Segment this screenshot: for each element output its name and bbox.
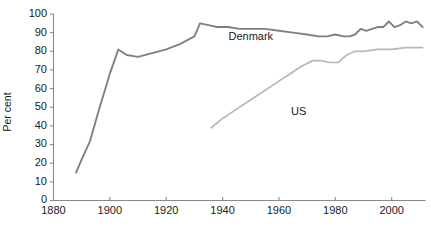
x-tick-label-1960: 1960 bbox=[267, 204, 291, 216]
y-tick-label-80: 80 bbox=[35, 44, 47, 56]
x-tick-label-1900: 1900 bbox=[98, 204, 122, 216]
chart-container: 0102030405060708090100 18801900192019401… bbox=[0, 0, 431, 230]
y-tick-label-90: 90 bbox=[35, 26, 47, 38]
x-tick-label-1940: 1940 bbox=[210, 204, 234, 216]
y-tick-label-40: 40 bbox=[35, 119, 47, 131]
x-axis-tick-labels: 1880190019201940196019802000 bbox=[41, 204, 404, 216]
series-lines bbox=[76, 21, 423, 172]
y-tick-label-20: 20 bbox=[35, 156, 47, 168]
y-tick-label-100: 100 bbox=[29, 7, 47, 19]
y-tick-label-30: 30 bbox=[35, 137, 47, 149]
x-tick-label-1880: 1880 bbox=[41, 204, 65, 216]
series-annotations: DenmarkUS bbox=[228, 30, 306, 117]
x-tick-label-1980: 1980 bbox=[323, 204, 347, 216]
series-label-denmark: Denmark bbox=[228, 30, 273, 42]
y-axis-tick-labels: 0102030405060708090100 bbox=[29, 7, 47, 206]
y-tick-label-10: 10 bbox=[35, 175, 47, 187]
x-tick-label-2000: 2000 bbox=[379, 204, 403, 216]
y-tick-label-70: 70 bbox=[35, 63, 47, 75]
y-tick-label-60: 60 bbox=[35, 82, 47, 94]
series-label-us: US bbox=[291, 105, 306, 117]
series-line-us bbox=[211, 48, 422, 128]
x-tick-label-1920: 1920 bbox=[154, 204, 178, 216]
y-tick-label-50: 50 bbox=[35, 100, 47, 112]
line-chart: 0102030405060708090100 18801900192019401… bbox=[0, 0, 431, 230]
series-line-denmark bbox=[76, 21, 423, 172]
y-axis-title: Per cent bbox=[1, 92, 13, 131]
